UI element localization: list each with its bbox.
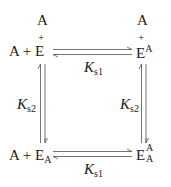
left-up-arrow — [38, 64, 41, 143]
top-left-stack-plus: + — [38, 32, 44, 43]
right-edge-label-sub: s2 — [130, 103, 139, 114]
bottom-right-sub: A — [146, 154, 153, 164]
right-up-arrow — [139, 64, 142, 143]
node-bottom-right: E — [136, 148, 145, 163]
bottom-left-sub: A — [44, 154, 51, 165]
left-down-arrow — [45, 64, 48, 143]
bottom-left-prefix: A + — [9, 147, 35, 163]
top-reverse-arrow — [53, 55, 132, 58]
bottom-left-species: E — [35, 147, 44, 163]
top-left-prefix: A + — [9, 43, 35, 59]
top-right-species: E — [136, 45, 145, 61]
bottom-edge-label-main: K — [84, 161, 94, 177]
top-right-sup: A — [145, 43, 152, 54]
bottom-right-species: E — [136, 147, 145, 163]
top-right-ligand-a: A — [137, 13, 148, 28]
top-edge-label: Ks1 — [84, 60, 103, 77]
right-edge-label: Ks2 — [120, 97, 139, 114]
bottom-edge-label-sub: s1 — [94, 168, 103, 179]
left-edge-label-main: K — [17, 96, 27, 112]
node-bottom-left: A + EA — [9, 148, 51, 165]
bottom-right-sup: A — [146, 143, 153, 153]
right-edge-label-main: K — [120, 96, 130, 112]
top-edge-label-main: K — [84, 59, 94, 75]
top-left-ligand-a: A — [37, 13, 48, 28]
left-edge-label-sub: s2 — [27, 103, 36, 114]
right-down-arrow — [146, 64, 149, 143]
top-right-stack-plus: + — [138, 32, 144, 43]
bottom-forward-arrow — [53, 149, 132, 152]
bottom-reverse-arrow — [53, 157, 132, 160]
left-edge-label: Ks2 — [17, 97, 36, 114]
node-top-right: EA — [136, 44, 152, 61]
top-forward-arrow — [53, 47, 132, 50]
bottom-edge-label: Ks1 — [84, 162, 103, 179]
node-top-left: A + E — [9, 44, 44, 59]
top-edge-label-sub: s1 — [94, 66, 103, 77]
top-left-species: E — [35, 43, 44, 59]
